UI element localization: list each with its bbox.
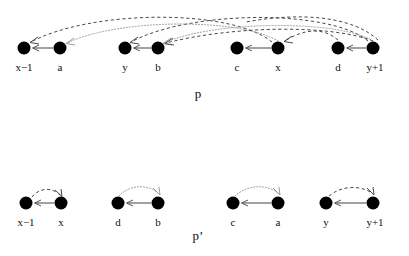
label2-node-x: x: [58, 216, 64, 228]
label2-node-d: d: [115, 216, 121, 228]
label-node-a: a: [58, 61, 63, 73]
label-node-c: c: [235, 61, 240, 73]
arc-x-to-xminus1: [31, 17, 272, 42]
label2-node-yplus1: y+1: [366, 216, 383, 228]
node2-a[interactable]: [272, 197, 285, 210]
arrowhead2-d-to-b: [153, 187, 160, 195]
label-node-d: d: [335, 61, 341, 73]
label-node-y: y: [122, 61, 128, 73]
node2-x[interactable]: [55, 197, 68, 210]
node2-y[interactable]: [320, 197, 333, 210]
node2-c[interactable]: [227, 197, 240, 210]
node-xminus1[interactable]: [18, 42, 31, 55]
arc2-c-to-a: [235, 187, 279, 196]
node-c[interactable]: [231, 42, 244, 55]
node-a[interactable]: [54, 42, 67, 55]
node2-xminus1[interactable]: [20, 197, 33, 210]
node2-b[interactable]: [152, 197, 165, 210]
label2-node-b: b: [155, 216, 161, 228]
label2-node-xminus1: x−1: [17, 216, 34, 228]
label-node-x: x: [275, 61, 281, 73]
label2-node-c: c: [231, 216, 236, 228]
arc-long-right-tail: [246, 17, 378, 40]
panel-p-prime-solid-edges: [35, 200, 367, 206]
panel-p-prime-caption: p’: [193, 228, 204, 244]
node-d[interactable]: [332, 42, 345, 55]
node2-yplus1[interactable]: [367, 197, 380, 210]
node-b[interactable]: [152, 42, 165, 55]
label-node-yplus1: y+1: [366, 61, 383, 73]
label2-node-y: y: [323, 216, 329, 228]
node-x[interactable]: [272, 42, 285, 55]
arrowhead2-xminus1-to-x: [55, 189, 62, 197]
arc2-y-to-yplus1: [329, 187, 373, 196]
panel-p-nodes: [18, 42, 380, 55]
arrowhead-b-to-a: [66, 38, 75, 45]
node2-d[interactable]: [112, 197, 125, 210]
label-node-xminus1: x−1: [15, 61, 32, 73]
panel-p-caption: p: [195, 86, 202, 102]
arc-d-to-x-cross: [285, 31, 338, 41]
label2-node-a: a: [276, 216, 281, 228]
node-y[interactable]: [119, 42, 132, 55]
panel-p-solid-edges: [33, 45, 367, 51]
arc-yplus1-to-b-cross: [166, 29, 373, 43]
panel-p-prime-nodes: [20, 197, 380, 210]
arc2-xminus1-to-x: [32, 189, 61, 197]
node-yplus1[interactable]: [367, 42, 380, 55]
figure-canvas: x−1 a y b c x d y+1 p x−1 x d b c a y y+…: [0, 0, 409, 256]
panel-p-prime-arcs: [32, 187, 374, 197]
panel-p-arcs: [30, 17, 378, 45]
label-node-b: b: [155, 61, 161, 73]
